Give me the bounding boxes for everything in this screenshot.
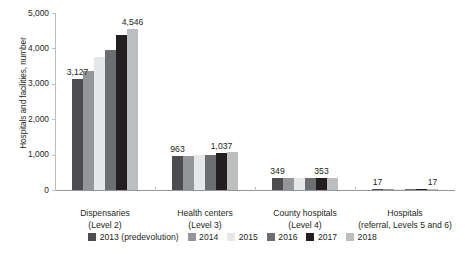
y-axis-tick-label: 3,000	[0, 78, 49, 88]
bars	[55, 13, 155, 190]
y-axis-tick-label: 5,000	[0, 8, 49, 18]
bar[interactable]	[427, 189, 438, 190]
legend-label: 2017	[318, 232, 337, 242]
bar-value-label: 4,546	[122, 17, 144, 27]
legend-label: 2018	[358, 232, 377, 242]
bar[interactable]	[194, 155, 205, 190]
bar[interactable]	[294, 178, 305, 190]
bar-value-label: 1,037	[211, 141, 233, 151]
bar[interactable]	[394, 189, 405, 190]
legend-label: 2015	[239, 232, 258, 242]
legend-item[interactable]: 2013 (predevolution)	[88, 232, 178, 242]
bar-value-label: 17	[428, 177, 438, 187]
legend-item[interactable]: 2014	[188, 232, 219, 242]
legend-label: 2013 (predevolution)	[100, 232, 179, 242]
legend-label: 2014	[199, 232, 218, 242]
bar[interactable]	[105, 50, 116, 190]
y-axis-tick-label: 4,000	[0, 43, 49, 53]
bar[interactable]	[94, 57, 105, 190]
bar[interactable]	[316, 178, 327, 190]
bar-value-label: 3,127	[67, 67, 89, 77]
plot-area: 3,1274,5469631,0373493531717 Dispensarie…	[55, 13, 455, 190]
legend-item[interactable]: 2017	[306, 232, 337, 242]
bar[interactable]	[305, 178, 316, 190]
legend-item[interactable]: 2018	[346, 232, 377, 242]
bar[interactable]	[183, 156, 194, 191]
x-axis-group-separator	[355, 187, 356, 191]
bar[interactable]	[383, 189, 394, 190]
legend-swatch-icon	[227, 233, 235, 241]
x-axis-category-label: Health centers(Level 3)	[177, 208, 232, 231]
x-axis-group-separator	[255, 187, 256, 191]
bar[interactable]	[83, 71, 94, 190]
bar[interactable]	[172, 156, 183, 190]
bar[interactable]	[72, 79, 83, 190]
bar-value-label: 963	[170, 144, 184, 154]
y-axis-tick-label: 2,000	[0, 114, 49, 124]
legend-swatch-icon	[188, 233, 196, 241]
bar-value-label: 353	[314, 166, 328, 176]
bar-value-label: 349	[270, 166, 284, 176]
legend-item[interactable]: 2016	[267, 232, 298, 242]
legend-swatch-icon	[306, 233, 314, 241]
x-axis-category-label: Dispensaries(Level 2)	[80, 208, 130, 231]
x-axis-group-separator	[155, 187, 156, 191]
y-axis-tick-label: 0	[0, 185, 49, 195]
bar[interactable]	[116, 35, 127, 190]
bar[interactable]	[327, 178, 338, 190]
x-axis-category-label: Hospitals(referral, Levels 5 and 6)	[358, 208, 452, 231]
bars	[155, 13, 255, 190]
bars	[255, 13, 355, 190]
legend-swatch-icon	[88, 233, 96, 241]
y-axis-tick	[52, 190, 56, 191]
y-axis-title: Hospitals and facilities, number	[18, 0, 28, 188]
bar-group	[55, 13, 155, 190]
bar[interactable]	[372, 189, 383, 190]
bar-chart: Hospitals and facilities, number 5,0004,…	[0, 0, 465, 254]
bar-group	[155, 13, 255, 190]
legend-swatch-icon	[267, 233, 275, 241]
chart-legend: 2013 (predevolution)20142015201620172018	[0, 232, 465, 242]
legend-item[interactable]: 2015	[227, 232, 258, 242]
bars	[355, 13, 455, 190]
y-axis-tick-label: 1,000	[0, 149, 49, 159]
bar[interactable]	[405, 189, 416, 190]
bar[interactable]	[272, 178, 283, 190]
bar[interactable]	[205, 155, 216, 190]
bar[interactable]	[416, 189, 427, 190]
bar-value-label: 17	[373, 177, 383, 187]
legend-swatch-icon	[346, 233, 354, 241]
bar[interactable]	[227, 152, 238, 190]
bar[interactable]	[216, 153, 227, 190]
bar-group	[355, 13, 455, 190]
x-axis-category-label: County hospitals(Level 4)	[273, 208, 337, 231]
legend-label: 2016	[278, 232, 297, 242]
bar[interactable]	[127, 29, 138, 190]
bar-group	[255, 13, 355, 190]
bar[interactable]	[283, 178, 294, 190]
